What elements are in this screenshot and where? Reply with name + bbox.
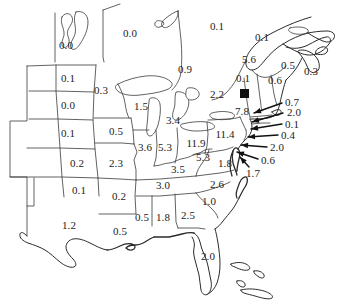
- callout-value-label: 1.7: [246, 168, 260, 179]
- region-value-label: 3.6: [138, 142, 152, 153]
- region-value-label: 3.0: [156, 180, 170, 191]
- region-value-label: 0.5: [109, 126, 123, 137]
- region-value-label: 1.8: [218, 158, 232, 169]
- louisiana-gulf-coast: [107, 237, 154, 250]
- region-value-label: 1.5: [134, 101, 148, 112]
- il-in-border: [154, 130, 157, 166]
- florida-east-coast: [208, 229, 220, 294]
- anticosti-island: [288, 27, 308, 34]
- region-value-label: 0.0: [61, 100, 75, 111]
- region-value-label: 2.6: [210, 179, 224, 190]
- al-ga-border: [175, 194, 178, 228]
- cuba-outline: [241, 289, 273, 299]
- region-value-label: 3.5: [171, 164, 185, 175]
- vt-nh-border: [257, 74, 262, 111]
- ia-mo-border: [95, 143, 134, 144]
- map-geography-svg: [0, 0, 347, 306]
- ia-east-edge: [131, 118, 134, 144]
- ontario-northern-lake: [162, 11, 179, 28]
- callout-arrow-head: [252, 117, 260, 122]
- region-value-label: 0.3: [304, 66, 318, 77]
- lake-ontario-outline: [210, 112, 235, 120]
- tn-south-border: [136, 193, 196, 196]
- region-value-label: 2.0: [201, 251, 215, 262]
- ok-tx-border: [27, 178, 34, 206]
- region-value-label: 3.4: [166, 115, 180, 126]
- in-oh-border: [175, 128, 178, 163]
- nd-sd-border: [29, 91, 94, 92]
- lake-superior-outline: [115, 76, 172, 96]
- callout-value-label: 0.6: [261, 155, 275, 166]
- region-value-label: 0.6: [268, 75, 282, 86]
- lake-winnipeg-outline: [70, 11, 88, 49]
- georgian-bay-outline: [186, 88, 199, 100]
- callout-value-label: 2.0: [270, 142, 284, 153]
- region-value-label: 0.5: [281, 60, 295, 71]
- region-value-label: 11.4: [215, 129, 234, 140]
- region-value-label: 2.5: [181, 210, 195, 221]
- bahamas-outline-2: [254, 271, 264, 278]
- sd-ne-border: [29, 119, 93, 120]
- mo-ar-border: [98, 178, 136, 180]
- montana-nd-border: [27, 65, 96, 66]
- ct-ri-border: [252, 123, 270, 124]
- callout-value-label: 0.4: [281, 130, 295, 141]
- region-value-label: 2.2: [210, 89, 224, 100]
- mo-east-edge: [134, 144, 137, 180]
- nj-de-border: [244, 130, 246, 140]
- region-value-label: 7.8: [235, 106, 249, 117]
- region-value-label: 0.1: [210, 21, 224, 32]
- region-value-label: 0.1: [236, 73, 250, 84]
- bahamas-outline: [231, 263, 250, 271]
- region-value-label: 0.0: [123, 28, 137, 39]
- region-value-label: 0.5: [113, 226, 127, 237]
- florida-panhandle-coast: [192, 233, 211, 295]
- hudson-bay-lowland-edge: [103, 4, 120, 10]
- region-value-label: 1.0: [202, 196, 216, 207]
- callout-arrow-head: [248, 134, 255, 140]
- region-value-label: 1.8: [156, 212, 170, 223]
- monitoring-site-marker: [240, 89, 249, 98]
- region-value-label: 0.1: [72, 185, 86, 196]
- lake-nipigon-outline: [155, 21, 164, 28]
- region-value-label: 5.3: [196, 152, 210, 163]
- lake-erie-outline: [181, 122, 215, 131]
- region-value-label: 1.2: [62, 220, 76, 231]
- region-value-label: 0.3: [94, 85, 108, 96]
- ontario-border-line: [103, 10, 104, 62]
- north-carolina-coast: [236, 177, 247, 198]
- ar-east-edge: [135, 180, 136, 214]
- region-value-label: 0.1: [255, 32, 269, 43]
- ne-ks-border: [27, 148, 95, 149]
- callout-arrow-head: [254, 108, 262, 113]
- bahamas-outline-3: [237, 281, 246, 287]
- west-edge-boundary: [10, 66, 27, 236]
- region-value-label: 0.2: [112, 191, 126, 202]
- us-deposition-map-figure: 0.00.00.10.10.10.30.95.60.50.30.01.52.20…: [0, 0, 347, 306]
- ny-nj-border: [240, 117, 246, 130]
- region-value-label: 0.2: [70, 158, 84, 169]
- region-value-label: 0.5: [135, 212, 149, 223]
- region-value-label: 5.6: [242, 54, 256, 65]
- callout-arrow-head: [237, 152, 245, 157]
- georgia-sc-coast: [215, 198, 239, 229]
- region-value-label: 0.1: [61, 128, 75, 139]
- mississippi-alabama-coast: [154, 233, 194, 237]
- region-value-label: 2.3: [109, 158, 123, 169]
- ks-ok-border: [10, 177, 98, 178]
- ga-fl-border: [178, 228, 205, 229]
- nc-va-border: [196, 170, 234, 176]
- region-value-label: 0.9: [178, 64, 192, 75]
- region-value-label: 0.1: [61, 73, 75, 84]
- callout-value-label: 2.0: [287, 107, 301, 118]
- region-value-label: 11.9: [186, 138, 205, 149]
- region-value-label: 5.3: [158, 142, 172, 153]
- texas-gulf-coast: [20, 233, 107, 268]
- region-value-label: 0.0: [59, 40, 73, 51]
